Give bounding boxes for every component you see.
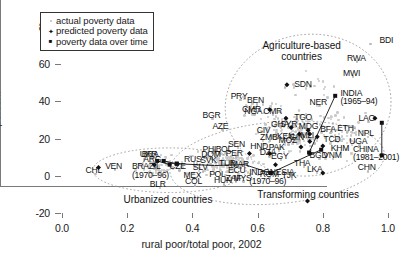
- country-label: NER: [310, 98, 327, 107]
- country-label: BGD: [310, 151, 328, 160]
- country-label: MWI: [343, 69, 360, 78]
- country-label: BDI: [380, 36, 394, 45]
- country-label: MLI: [300, 131, 314, 140]
- predicted-poverty-marker: [247, 151, 252, 156]
- country-label: AZE: [212, 122, 228, 131]
- country-label: EGY: [271, 152, 288, 161]
- country-label: BGR: [203, 111, 221, 120]
- time-series-marker: [333, 94, 337, 98]
- country-label: CHN: [358, 163, 376, 172]
- country-label: LAO: [358, 114, 374, 123]
- group-annotation-line1: Transforming countries: [248, 189, 368, 200]
- country-label: PRY: [231, 92, 248, 101]
- country-label: BFA: [320, 125, 336, 134]
- predicted-poverty-marker: [284, 82, 289, 87]
- predicted-poverty-marker: [298, 144, 303, 149]
- time-series-label-years: (1981–2001): [353, 153, 399, 162]
- group-annotation: Urbanized countries: [108, 194, 228, 205]
- country-label: CMR: [263, 107, 282, 116]
- country-label: SYR: [280, 120, 297, 129]
- time-series-label: BRAZIL(1970–96): [132, 162, 169, 179]
- country-label: NGA: [244, 107, 262, 116]
- time-series-label: INDIA(1965–94): [340, 89, 377, 106]
- country-label: BEN: [247, 96, 264, 105]
- time-series-marker: [380, 121, 384, 125]
- country-label: BLR: [150, 180, 166, 189]
- country-label: ETH: [337, 124, 353, 133]
- group-annotation-line1: Urbanized countries: [108, 194, 228, 205]
- country-label: CHL: [86, 166, 102, 175]
- time-series-label: UKR: [140, 150, 157, 159]
- time-series-label: INDONESIA(1970–96): [249, 168, 294, 185]
- group-annotation-line1: Agriculture-based: [242, 40, 362, 51]
- country-label: THA: [294, 159, 310, 168]
- group-annotation: Transforming countries: [248, 189, 368, 200]
- country-label: VEN: [105, 162, 122, 171]
- time-series-label-years: (1970–96): [249, 177, 294, 186]
- poverty-scatter-chart: -200204060800.00.20.40.60.81.0 percent r…: [0, 0, 403, 259]
- group-annotation-line2: countries: [242, 51, 362, 62]
- country-label: COL: [185, 177, 202, 186]
- country-label: SDN: [294, 80, 311, 89]
- time-series-label-name: UKR: [140, 150, 157, 159]
- time-series-label-years: (1965–94): [340, 97, 377, 106]
- time-series-label-years: (1970–96): [132, 171, 169, 180]
- group-annotation: Agriculture-basedcountries: [242, 40, 362, 62]
- time-series-label: CHINA(1981–2001): [353, 145, 399, 162]
